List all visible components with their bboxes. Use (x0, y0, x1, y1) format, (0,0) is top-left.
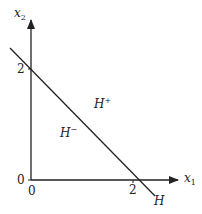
x-tick-label-2: 2 (129, 183, 137, 197)
x-origin-label: 0 (28, 184, 36, 198)
hyperplane-label: H (153, 194, 165, 208)
y-tick-label-2: 2 (17, 62, 25, 76)
positive-halfspace-label: H+ (93, 96, 111, 111)
y-axis-label: x2 (14, 6, 26, 22)
y-origin-label: 0 (17, 173, 25, 187)
x-axis-label: x1 (184, 171, 196, 187)
hyperplane-line (10, 48, 155, 196)
halfspace-diagram: x2 x1 2 0 0 2 H+ H− H (0, 0, 202, 214)
negative-halfspace-label: H− (59, 125, 77, 140)
